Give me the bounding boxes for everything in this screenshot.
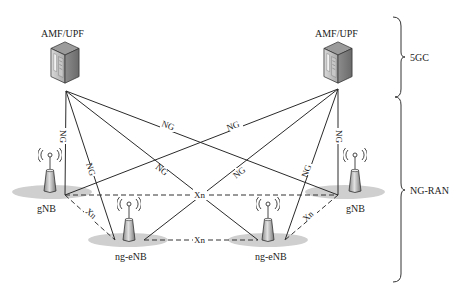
- ngenb-right: ng-eNB: [255, 197, 287, 262]
- ngenb-right-label: ng-eNB: [255, 251, 287, 262]
- amf-upf-right-label: AMF/UPF: [315, 28, 358, 39]
- ngenb-left: ng-eNB: [115, 197, 147, 262]
- ng-ran-brace: NG-RAN: [393, 97, 449, 282]
- amf-upf-right: AMF/UPF: [315, 28, 358, 83]
- ng-label-right-core-to-left-ngenb: NG: [231, 164, 248, 180]
- ng-label-left-vertical: NG: [58, 130, 68, 143]
- ng-ran-label: NG-RAN: [410, 185, 449, 196]
- ng-labels: NG NG NG NG NG NG NG NG: [58, 119, 344, 181]
- gnb-left-label: gNB: [37, 203, 56, 214]
- gnb-right: gNB: [343, 148, 368, 214]
- amf-upf-left: AMF/UPF: [41, 28, 84, 83]
- xn-label-ngenb-to-ngenb: Xn: [194, 235, 205, 245]
- ng-link-left-core-to-right-gnb: [66, 91, 338, 195]
- gnb-right-label: gNB: [346, 203, 365, 214]
- server-icon: [324, 42, 352, 83]
- server-icon: [51, 42, 79, 83]
- ngenb-left-label: ng-eNB: [115, 251, 147, 262]
- ng-label-right-vertical: NG: [334, 130, 344, 143]
- amf-upf-left-label: AMF/UPF: [41, 28, 84, 39]
- 5gc-label: 5GC: [410, 52, 429, 63]
- xn-label-gnb-to-gnb: Xn: [194, 190, 205, 200]
- gnb-left: gNB: [37, 148, 62, 214]
- 5gc-brace: 5GC: [393, 17, 429, 97]
- xn-label-right-gnb-to-ngenb: Xn: [301, 208, 316, 223]
- ng-ran-architecture-diagram: NG NG NG NG NG NG NG NG Xn Xn Xn Xn AMF/…: [0, 0, 462, 294]
